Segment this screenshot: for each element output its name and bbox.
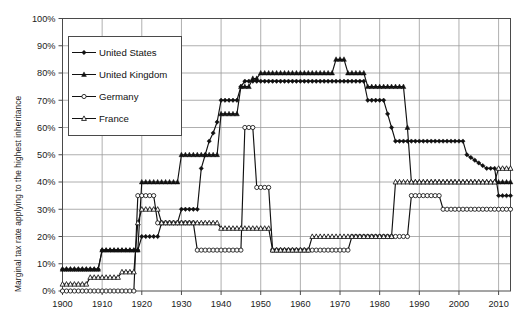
x-tick-label: 1910 bbox=[92, 299, 112, 309]
data-point-marker bbox=[508, 207, 512, 211]
data-point-marker bbox=[508, 166, 513, 171]
data-point-marker bbox=[508, 193, 512, 197]
data-point-marker bbox=[155, 234, 159, 238]
legend-item-united-kingdom[interactable]: United Kingdom bbox=[69, 64, 181, 85]
data-point-marker bbox=[199, 166, 203, 170]
data-point-marker bbox=[215, 120, 219, 124]
data-point-marker bbox=[215, 220, 220, 225]
y-tick-label: 70% bbox=[37, 96, 55, 106]
data-point-marker bbox=[267, 185, 271, 189]
data-point-marker bbox=[389, 125, 393, 129]
x-tick-label: 1930 bbox=[171, 299, 191, 309]
data-point-marker bbox=[195, 207, 199, 211]
y-tick-label: 100% bbox=[32, 14, 56, 24]
legend-symbol-filled-triangle-icon bbox=[69, 64, 99, 85]
legend-symbol-open-triangle-icon bbox=[69, 108, 99, 129]
data-point-marker bbox=[131, 269, 136, 274]
x-tick-label: 1980 bbox=[369, 299, 389, 309]
y-tick-labels: 0%10%20%30%40%50%60%70%80%90%100% bbox=[32, 14, 56, 297]
data-point-marker bbox=[437, 194, 441, 198]
x-tick-label: 1950 bbox=[251, 299, 271, 309]
legend-marker-icon bbox=[69, 108, 99, 129]
y-tick-label: 20% bbox=[37, 232, 55, 242]
data-point-marker bbox=[461, 139, 465, 143]
legend-symbol-filled-diamond-icon bbox=[69, 42, 99, 63]
x-tick-label: 1920 bbox=[132, 299, 152, 309]
legend-marker-icon bbox=[69, 42, 99, 63]
chart-legend: United StatesUnited KingdomGermanyFrance bbox=[68, 36, 182, 136]
data-point-marker bbox=[385, 112, 389, 116]
x-tick-label: 1990 bbox=[409, 299, 429, 309]
data-point-marker bbox=[152, 194, 156, 198]
y-tick-label: 50% bbox=[37, 150, 55, 160]
y-tick-label: 0% bbox=[42, 286, 55, 296]
x-tick-labels: 1900191019201930194019501960197019801990… bbox=[52, 299, 509, 309]
legend-label: United States bbox=[99, 47, 157, 58]
data-point-marker bbox=[389, 234, 394, 239]
x-tick-label: 1960 bbox=[290, 299, 310, 309]
x-tick-label: 1900 bbox=[52, 299, 72, 309]
data-point-marker bbox=[239, 248, 243, 252]
x-tick-label: 2010 bbox=[488, 299, 508, 309]
x-tick-label: 1970 bbox=[330, 299, 350, 309]
data-point-marker bbox=[346, 248, 350, 252]
y-tick-label: 40% bbox=[37, 177, 55, 187]
x-tick-label: 2000 bbox=[449, 299, 469, 309]
legend-marker-icon bbox=[69, 86, 99, 107]
inheritance-tax-chart: Marginal tax rate applying to the highes… bbox=[0, 0, 527, 323]
data-point-marker bbox=[211, 131, 215, 135]
y-tick-label: 10% bbox=[37, 259, 55, 269]
legend-label: Germany bbox=[99, 91, 138, 102]
y-tick-label: 60% bbox=[37, 123, 55, 133]
data-point-marker bbox=[251, 125, 255, 129]
legend-marker-icon bbox=[69, 64, 99, 85]
legend-label: France bbox=[99, 113, 129, 124]
legend-item-germany[interactable]: Germany bbox=[69, 86, 181, 107]
data-point-marker bbox=[306, 248, 311, 253]
y-tick-label: 80% bbox=[37, 68, 55, 78]
data-point-marker bbox=[155, 207, 160, 212]
legend-label: United Kingdom bbox=[99, 69, 167, 80]
x-tick-label: 1940 bbox=[211, 299, 231, 309]
legend-item-france[interactable]: France bbox=[69, 108, 181, 129]
legend-symbol-open-circle-icon bbox=[69, 86, 99, 107]
series-france bbox=[60, 166, 513, 286]
data-point-marker bbox=[381, 98, 385, 102]
data-point-marker bbox=[132, 289, 136, 293]
legend-item-united-states[interactable]: United States bbox=[69, 42, 181, 63]
y-tick-label: 90% bbox=[37, 41, 55, 51]
data-point-marker bbox=[266, 226, 271, 231]
y-tick-label: 30% bbox=[37, 205, 55, 215]
data-point-marker bbox=[405, 234, 409, 238]
data-point-marker bbox=[207, 139, 211, 143]
